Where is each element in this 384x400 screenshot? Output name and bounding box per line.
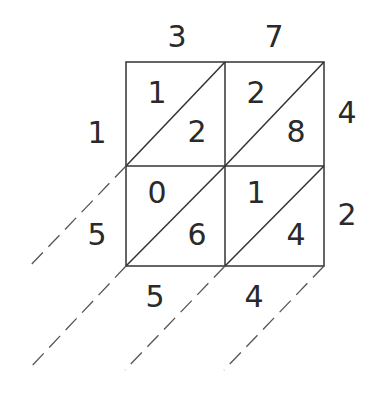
result-digit-bottom: 4 <box>239 282 269 312</box>
cell-diagonal <box>225 62 324 166</box>
top-digit: 3 <box>162 22 192 52</box>
cell-diagonal <box>126 166 225 266</box>
cell-tens-digit: 1 <box>241 178 271 208</box>
cell-ones-digit: 6 <box>182 220 212 250</box>
cell-tens-digit: 2 <box>241 78 271 108</box>
cell-ones-digit: 4 <box>281 220 311 250</box>
top-digit: 7 <box>259 22 289 52</box>
result-digit-bottom: 5 <box>140 282 170 312</box>
cell-tens-digit: 0 <box>142 178 172 208</box>
diagonal-extension-dashed <box>28 166 126 268</box>
right-digit: 4 <box>332 98 362 128</box>
lattice-grid <box>0 0 384 400</box>
result-digit-left: 1 <box>82 118 112 148</box>
result-digit-left: 5 <box>82 220 112 250</box>
cell-tens-digit: 1 <box>142 78 172 108</box>
diagonal-extension-dashed <box>28 266 126 370</box>
right-digit: 2 <box>332 200 362 230</box>
cell-ones-digit: 8 <box>281 117 311 147</box>
cell-ones-digit: 2 <box>182 117 212 147</box>
cell-diagonal <box>126 62 225 166</box>
cell-diagonal <box>225 166 324 266</box>
